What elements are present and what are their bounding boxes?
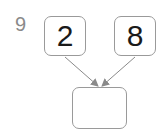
left-arrow bbox=[65, 57, 98, 86]
answer-box[interactable] bbox=[72, 87, 127, 129]
right-arrow bbox=[102, 57, 135, 86]
